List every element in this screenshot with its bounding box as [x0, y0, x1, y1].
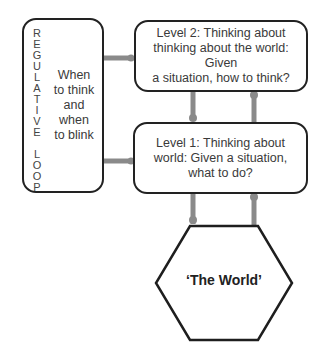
level2-text: Level 2: Thinking about thinking about t… [136, 26, 306, 86]
world-label: ‘The World’ [155, 272, 293, 288]
regulative-loop-vertical-label: R E G U L A T I V E L O O P [30, 28, 44, 193]
regulative-loop-box: R E G U L A T I V E L O O P When to thin… [22, 18, 104, 193]
diagram-canvas: R E G U L A T I V E L O O P When to thin… [0, 0, 327, 361]
regulative-loop-text: When to think and when to blink [48, 20, 100, 191]
level1-text: Level 1: Thinking about world: Given a s… [154, 136, 287, 181]
level2-box: Level 2: Thinking about thinking about t… [134, 20, 308, 92]
level1-box: Level 1: Thinking about world: Given a s… [133, 122, 308, 194]
